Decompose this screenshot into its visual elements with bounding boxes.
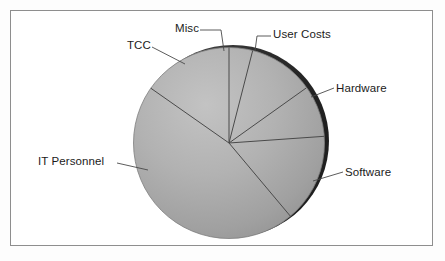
pie-chart-figure: Misc User Costs TCC Hardware Software IT… (0, 0, 445, 261)
pie-label-hardware: Hardware (336, 82, 387, 94)
leader-line-tcc (152, 47, 185, 64)
pie-label-software: Software (345, 166, 391, 178)
pie-label-tcc: TCC (127, 39, 151, 51)
pie-chart-canvas (0, 0, 445, 261)
pie-label-it-personnel: IT Personnel (38, 155, 104, 167)
pie-label-misc: Misc (175, 22, 199, 34)
pie-label-user-costs: User Costs (273, 28, 331, 40)
